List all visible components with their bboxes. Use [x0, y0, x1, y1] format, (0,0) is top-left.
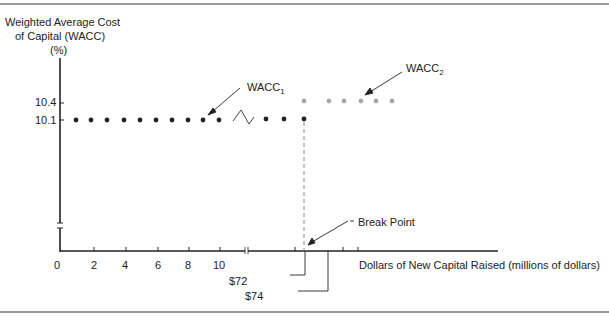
break-point-label: Break Point [358, 216, 415, 229]
wacc1-series [74, 117, 307, 123]
y-tick-10-1: 10.1 [35, 114, 56, 127]
x-tick-6: 6 [155, 259, 161, 272]
x-tick-10: 10 [213, 259, 225, 272]
x-tick-4: 4 [122, 259, 128, 272]
y-axis-title-line3: (%) [50, 44, 67, 57]
chart-canvas [0, 0, 609, 322]
wacc2-series [302, 99, 395, 104]
x-tick-0: 0 [54, 259, 60, 272]
x-axis-title: Dollars of New Capital Raised (millions … [359, 259, 600, 272]
label-74: $74 [245, 290, 263, 303]
x-tick-8: 8 [185, 259, 191, 272]
y-tick-10-4: 10.4 [35, 96, 56, 109]
y-axis-title-line2: of Capital (WACC) [15, 30, 105, 43]
wacc2-label: WACC2 [406, 62, 444, 79]
label-72: $72 [229, 275, 247, 288]
wacc1-label: WACC1 [247, 81, 285, 98]
break-zigzag [233, 110, 254, 124]
x-tick-2: 2 [91, 259, 97, 272]
y-axis-title-line1: Weighted Average Cost [5, 16, 120, 29]
